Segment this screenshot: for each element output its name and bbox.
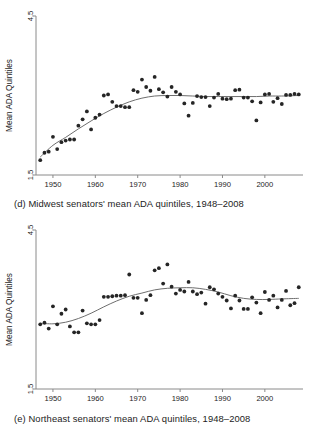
data-point	[242, 96, 246, 100]
data-point	[89, 322, 93, 326]
x-tick-label: 2000	[256, 180, 273, 189]
data-point	[191, 290, 195, 294]
data-point	[212, 287, 216, 291]
data-point	[238, 88, 242, 92]
y-tick-label: 4.5	[26, 11, 35, 22]
data-point	[89, 128, 93, 132]
data-point	[259, 311, 263, 315]
x-tick-label: 1950	[44, 180, 61, 189]
data-point	[187, 280, 191, 284]
data-point	[51, 304, 55, 308]
data-point	[174, 90, 178, 94]
data-point	[55, 322, 59, 326]
data-point	[229, 307, 233, 311]
data-point	[123, 105, 127, 109]
data-point	[136, 296, 140, 300]
data-point	[250, 99, 254, 103]
data-point	[140, 78, 144, 82]
data-point	[93, 322, 97, 326]
data-point	[271, 100, 275, 104]
data-point	[204, 95, 208, 99]
x-tick-label: 1950	[44, 394, 61, 403]
scatter-plot-northeast: 1.54.5Mean ADA Quintiles1950196019701980…	[0, 214, 310, 404]
data-point	[297, 285, 301, 289]
data-point	[246, 307, 250, 311]
data-point	[43, 151, 47, 155]
data-point	[263, 290, 267, 294]
data-point	[85, 321, 89, 325]
x-tick-label: 1970	[129, 394, 146, 403]
data-point	[284, 289, 288, 293]
data-point	[60, 140, 64, 144]
data-point	[284, 93, 288, 97]
data-point	[153, 75, 157, 79]
y-axis-title: Mean ADA Quintiles	[5, 273, 14, 346]
data-point	[119, 294, 123, 298]
x-tick-label: 1970	[129, 180, 146, 189]
data-point	[106, 295, 110, 299]
data-point	[182, 290, 186, 294]
data-point	[68, 138, 72, 142]
data-point	[178, 288, 182, 292]
x-tick-label: 1990	[214, 180, 231, 189]
data-point	[161, 282, 165, 286]
data-point	[119, 104, 123, 108]
data-point	[115, 104, 119, 108]
data-point	[149, 293, 153, 297]
data-point	[191, 101, 195, 105]
x-tick-label: 1980	[172, 180, 189, 189]
data-point	[293, 92, 297, 96]
data-point	[161, 90, 165, 94]
data-point	[149, 89, 153, 93]
data-point	[271, 294, 275, 298]
x-tick-label: 2000	[256, 394, 273, 403]
panel-caption-d: (d) Midwest senators' mean ADA quintiles…	[14, 198, 244, 210]
data-point	[216, 292, 220, 296]
data-point	[250, 295, 254, 299]
data-point	[60, 312, 64, 316]
panel-caption-e: (e) Northeast senators' mean ADA quintil…	[14, 413, 250, 425]
data-point	[123, 293, 127, 297]
x-tick-label: 1960	[87, 180, 104, 189]
data-point	[297, 93, 301, 97]
data-point	[263, 93, 267, 97]
data-point	[98, 113, 102, 117]
figure-panel-d: 1.54.5Mean ADA Quintiles1950196019701980…	[0, 0, 310, 214]
data-point	[267, 92, 271, 96]
data-point	[233, 294, 237, 298]
data-point	[115, 294, 119, 298]
data-point	[76, 330, 80, 334]
data-point	[144, 298, 148, 302]
data-point	[98, 318, 102, 322]
data-point	[64, 139, 68, 143]
chart-northeast: 1.54.5Mean ADA Quintiles1950196019701980…	[0, 214, 310, 404]
data-point	[178, 93, 182, 97]
data-point	[93, 116, 97, 120]
data-point	[165, 95, 169, 99]
data-point	[225, 97, 229, 101]
data-point	[216, 92, 220, 96]
y-tick-label: 1.5	[26, 384, 35, 395]
data-point	[144, 85, 148, 89]
data-point	[212, 96, 216, 100]
data-point	[47, 150, 51, 154]
data-point	[204, 302, 208, 306]
data-point	[153, 268, 157, 272]
data-point	[229, 97, 233, 101]
data-point	[157, 266, 161, 270]
data-point	[187, 114, 191, 118]
data-point	[64, 308, 68, 312]
data-point	[288, 93, 292, 97]
data-point	[47, 327, 51, 331]
data-point	[43, 321, 47, 325]
data-point	[140, 311, 144, 315]
data-point	[254, 119, 258, 123]
data-point	[38, 158, 42, 162]
data-point	[68, 325, 72, 329]
x-tick-label: 1990	[214, 394, 231, 403]
data-point	[38, 322, 42, 326]
data-point	[195, 292, 199, 296]
data-point	[221, 295, 225, 299]
data-point	[195, 94, 199, 98]
data-point	[182, 102, 186, 106]
